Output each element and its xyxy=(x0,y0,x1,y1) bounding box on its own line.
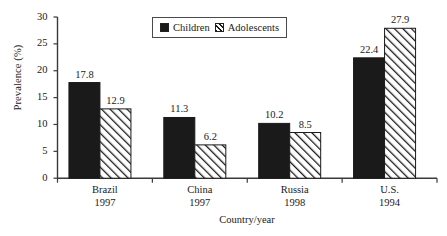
bar-value-label: 6.2 xyxy=(187,132,234,143)
bar-china-children xyxy=(164,117,195,178)
bar-value-label: 17.8 xyxy=(61,70,108,81)
bar-us-children xyxy=(354,58,385,178)
x-category-russia: Russia1998 xyxy=(255,183,335,209)
bar-russia-adolescents xyxy=(290,133,321,179)
y-tick-label: 25 xyxy=(22,38,48,49)
x-category-china: China1997 xyxy=(160,183,240,209)
solid-square-icon xyxy=(160,23,169,32)
bar-brazil-adolescents xyxy=(100,109,131,178)
legend-label-adolescents: Adolescents xyxy=(228,22,279,33)
bar-value-label: 22.4 xyxy=(346,45,393,56)
bar-china-adolescents xyxy=(195,145,226,178)
y-tick-label: 5 xyxy=(22,146,48,157)
x-category-year: 1997 xyxy=(65,196,145,209)
hatched-square-icon xyxy=(215,23,224,32)
chart-legend: Children Adolescents xyxy=(152,17,287,38)
legend-entry-adolescents: Adolescents xyxy=(215,22,279,33)
x-category-name: Brazil xyxy=(65,183,145,196)
y-tick-label: 0 xyxy=(22,173,48,184)
x-category-year: 1994 xyxy=(350,196,430,209)
y-tick-label: 30 xyxy=(22,12,48,23)
legend-entry-children: Children xyxy=(160,22,210,33)
x-category-name: U.S. xyxy=(350,183,430,196)
bar-value-label: 11.3 xyxy=(156,104,203,115)
bar-value-label: 8.5 xyxy=(282,120,329,131)
x-category-year: 1998 xyxy=(255,196,335,209)
bar-value-label: 27.9 xyxy=(377,15,424,26)
x-category-us: U.S.1994 xyxy=(350,183,430,209)
y-tick-label: 15 xyxy=(22,92,48,103)
bar-russia-children xyxy=(259,123,290,178)
bar-value-label: 12.9 xyxy=(92,96,139,107)
x-category-name: China xyxy=(160,183,240,196)
bar-chart: Prevalence (%) Country/year 17.812.911.3… xyxy=(0,0,447,236)
legend-label-children: Children xyxy=(173,22,210,33)
x-category-year: 1997 xyxy=(160,196,240,209)
y-tick-label: 20 xyxy=(22,65,48,76)
y-tick-label: 10 xyxy=(22,119,48,130)
x-category-name: Russia xyxy=(255,183,335,196)
x-category-brazil: Brazil1997 xyxy=(65,183,145,209)
